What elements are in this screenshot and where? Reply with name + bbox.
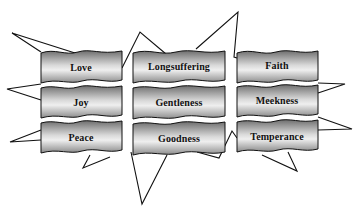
- label-faith: Faith: [265, 60, 288, 71]
- label-love: Love: [70, 62, 92, 73]
- label-peace: Peace: [69, 132, 94, 143]
- spike-right-upper: [318, 83, 345, 93]
- spike-right-lower: [318, 117, 352, 130]
- label-longsuffering: Longsuffering: [148, 61, 210, 72]
- spike-left-bottom: [10, 130, 41, 142]
- spike-left-middle: [7, 84, 41, 100]
- label-gentleness: Gentleness: [155, 97, 202, 108]
- label-meekness: Meekness: [256, 95, 298, 106]
- label-goodness: Goodness: [158, 133, 200, 144]
- spike-top-left: [12, 33, 75, 53]
- spike-bottom-left: [83, 155, 110, 168]
- label-joy: Joy: [73, 97, 88, 108]
- spike-bottom-right: [262, 152, 297, 171]
- spike-bottom-middle: [131, 152, 167, 204]
- spike-top-right: [196, 12, 238, 58]
- label-temperance: Temperance: [250, 131, 303, 142]
- fruits-of-spirit-diagram: Love Joy Peace Longsuffering Gentleness …: [0, 0, 360, 213]
